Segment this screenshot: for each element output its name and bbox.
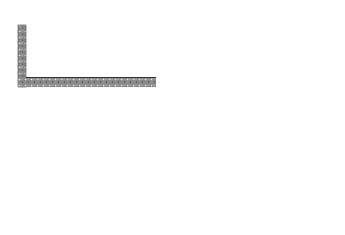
wall-1 [18, 25, 26, 87]
panel-1 [18, 25, 156, 87]
